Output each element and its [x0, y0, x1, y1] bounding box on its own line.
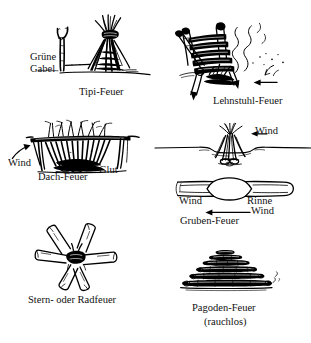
wind-arrow-lehnstuhl	[252, 53, 283, 86]
pit-fire-cone	[215, 123, 245, 166]
illustration-sheet: Grüne Gabel Tipi-Feuer	[0, 0, 311, 343]
subcaption-pagoden-rauchlos: (rauchlos)	[204, 317, 247, 328]
label-gruene-gabel-line1: Grüne	[30, 52, 56, 63]
label-glut: Glut	[99, 165, 118, 176]
figure-pagoden-feuer	[170, 246, 280, 302]
chair-log-stack	[188, 34, 234, 74]
dach-twigs-top	[45, 120, 112, 136]
caption-tipi-feuer: Tipi-Feuer	[79, 87, 124, 98]
crossbar-stick	[66, 64, 90, 65]
smoke-wisps-pagoden	[273, 272, 280, 283]
pagoda-log-stack	[181, 250, 272, 291]
caption-pagoden-feuer: Pagoden-Feuer	[192, 303, 256, 314]
figure-gruben-feuer-side	[155, 120, 311, 168]
label-wind-dach: Wind	[8, 158, 31, 169]
smoke-curls	[232, 23, 265, 72]
figure-stern-radfeuer	[25, 222, 135, 292]
label-wind-gruben-left: Wind	[179, 196, 202, 207]
caption-lehnstuhl-feuer: Lehnstuhl-Feuer	[213, 96, 282, 107]
figure-lehnstuhl-feuer	[165, 10, 311, 105]
caption-dach-feuer: Dach-Feuer	[38, 172, 88, 183]
label-gruene-gabel-line2: Gabel	[30, 64, 55, 75]
caption-stern-radfeuer: Stern- oder Radfeuer	[28, 295, 116, 306]
label-wind-gruben-bottom: Wind	[251, 206, 274, 217]
tipi-cone-sticks	[88, 15, 138, 72]
caption-gruben-feuer: Gruben-Feuer	[180, 216, 239, 227]
label-wind-gruben-side: Wind	[255, 126, 278, 137]
gruene-gabel-drawing	[57, 27, 67, 70]
